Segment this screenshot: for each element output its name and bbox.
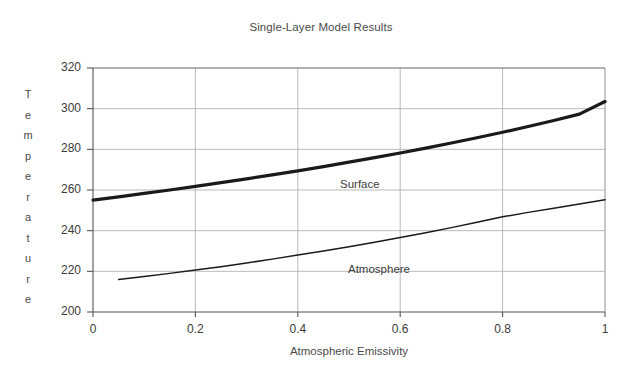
series-label-atmosphere: Atmosphere: [348, 263, 410, 275]
y-axis-title-letter: t: [20, 228, 36, 249]
y-tick-label: 220: [37, 263, 81, 277]
x-axis-title: Atmospheric Emissivity: [93, 345, 605, 357]
x-tick-label: 0.2: [175, 322, 215, 336]
y-axis-title-letter: m: [20, 125, 36, 146]
chart-title: Single-Layer Model Results: [0, 21, 642, 33]
y-axis-title-letter: e: [20, 105, 36, 126]
y-tick-label: 260: [37, 182, 81, 196]
y-axis-title-letter: T: [20, 84, 36, 105]
x-tick-label: 0: [73, 322, 113, 336]
data-series: [93, 102, 605, 280]
y-axis-title-letter: u: [20, 248, 36, 269]
y-axis-title-letter: r: [20, 187, 36, 208]
x-tick-label: 0.8: [483, 322, 523, 336]
y-axis-title-letter: r: [20, 269, 36, 290]
y-tick-label: 200: [37, 304, 81, 318]
x-tick-label: 1: [585, 322, 625, 336]
chart-figure: Single-Layer Model Results Temperature A…: [0, 0, 642, 392]
y-axis-title-letter: p: [20, 146, 36, 167]
series-label-surface: Surface: [340, 178, 380, 190]
y-tick-label: 300: [37, 101, 81, 115]
y-axis-title: Temperature: [20, 84, 36, 310]
y-axis-title-letter: e: [20, 289, 36, 310]
axis-ticks: [87, 68, 605, 317]
y-tick-label: 280: [37, 141, 81, 155]
x-tick-label: 0.6: [380, 322, 420, 336]
y-tick-label: 320: [37, 60, 81, 74]
y-axis-title-letter: e: [20, 166, 36, 187]
y-tick-label: 240: [37, 223, 81, 237]
y-axis-title-letter: a: [20, 207, 36, 228]
x-tick-label: 0.4: [278, 322, 318, 336]
